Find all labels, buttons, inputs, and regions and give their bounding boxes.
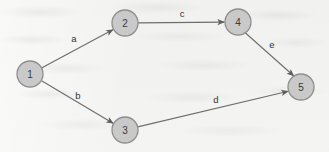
edge-c-line: [138, 22, 225, 23]
node-4[interactable]: 4: [225, 9, 251, 35]
edge-label-c: c: [180, 8, 185, 19]
node-5[interactable]: 5: [288, 74, 314, 100]
node-group: 1 2 3 4 5: [17, 9, 314, 143]
edge-a[interactable]: [42, 30, 114, 68]
edge-label-a: a: [71, 33, 77, 44]
node-1[interactable]: 1: [17, 61, 43, 87]
node-5-label: 5: [298, 82, 304, 93]
edge-label-b: b: [75, 90, 80, 101]
edge-c[interactable]: [138, 22, 225, 23]
node-2[interactable]: 2: [112, 10, 138, 36]
figure-canvas: a b c d e 1 2 3 4: [0, 0, 329, 152]
directed-graph: a b c d e 1 2 3 4: [0, 0, 329, 152]
edge-b-line: [42, 81, 114, 124]
node-3[interactable]: 3: [112, 117, 138, 143]
node-3-label: 3: [122, 125, 128, 136]
edge-group: [42, 22, 294, 127]
node-2-label: 2: [122, 18, 128, 29]
edge-b[interactable]: [42, 81, 114, 124]
edge-label-d: d: [213, 94, 218, 105]
node-1-label: 1: [27, 69, 33, 80]
node-4-label: 4: [235, 17, 241, 28]
edge-label-e: e: [269, 39, 274, 50]
edge-a-line: [42, 30, 114, 68]
